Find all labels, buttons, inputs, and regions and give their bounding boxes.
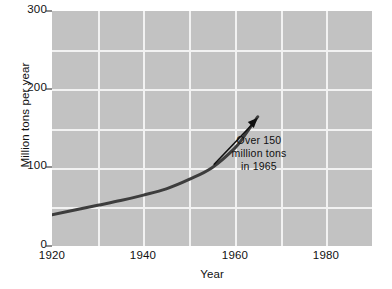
peak-callout-annotation: Over 150 million tons in 1965 xyxy=(203,134,315,173)
y-tick-label-300: 300 xyxy=(7,3,47,15)
x-tick-label-1940: 1940 xyxy=(120,249,166,261)
x-tick-label-1920: 1920 xyxy=(29,249,75,261)
y-axis-line xyxy=(50,11,52,246)
chart-figure: Over 150 million tons in 1965 300 200 10… xyxy=(0,0,392,289)
x-tick-label-1980: 1980 xyxy=(303,249,349,261)
callout-line-3: in 1965 xyxy=(203,160,315,173)
y-axis-label: Million tons per year xyxy=(19,39,31,191)
series-line-production xyxy=(52,11,372,246)
callout-line-2: million tons xyxy=(203,147,315,160)
x-tick-label-1960: 1960 xyxy=(212,249,258,261)
callout-line-1: Over 150 xyxy=(203,134,315,147)
plot-area xyxy=(52,11,372,246)
x-axis-label: Year xyxy=(52,268,372,280)
